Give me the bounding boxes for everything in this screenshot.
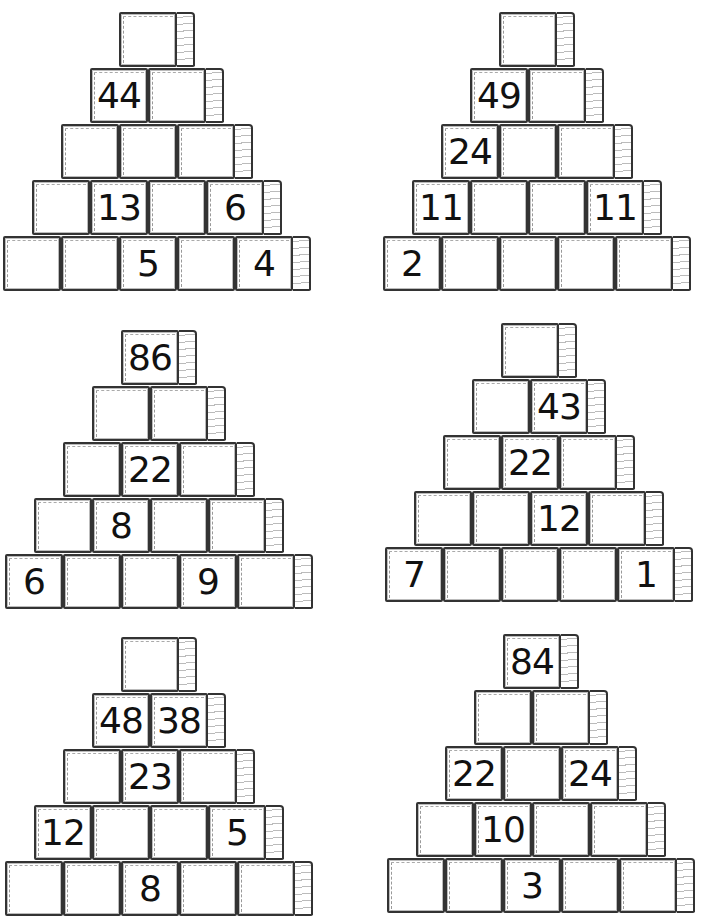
- pyramid-block-empty[interactable]: [615, 236, 673, 291]
- block-side-shading: [208, 386, 226, 441]
- pyramid-block-empty[interactable]: [63, 442, 121, 497]
- pyramid-block-empty[interactable]: [148, 68, 206, 123]
- pyramid-block-given: 6: [206, 180, 264, 235]
- pyramid-block-given: 5: [119, 236, 177, 291]
- pyramid-block-empty[interactable]: [416, 802, 474, 857]
- pyramid-block-given: 24: [561, 746, 619, 801]
- pyramid-block-empty[interactable]: [148, 180, 206, 235]
- pyramid-block-empty[interactable]: [61, 236, 119, 291]
- pyramid-block-given: 86: [121, 330, 179, 385]
- block-side-shading: [646, 491, 664, 546]
- pyramid-block-empty[interactable]: [532, 802, 590, 857]
- block-side-shading: [586, 68, 604, 123]
- pyramid-block-given: 12: [530, 491, 588, 546]
- pyramid-block-given: 24: [441, 124, 499, 179]
- block-side-shading: [295, 554, 313, 609]
- pyramid-block-empty[interactable]: [177, 124, 235, 179]
- pyramid-block-empty[interactable]: [63, 749, 121, 804]
- block-side-shading: [237, 442, 255, 497]
- pyramid-block-empty[interactable]: [5, 861, 63, 916]
- pyramid-block-empty[interactable]: [3, 236, 61, 291]
- pyramid-block-empty[interactable]: [528, 68, 586, 123]
- pyramid-block-empty[interactable]: [561, 858, 619, 913]
- pyramid-block-given: 23: [121, 749, 179, 804]
- block-side-shading: [619, 746, 637, 801]
- pyramid-block-empty[interactable]: [119, 12, 177, 67]
- pyramid-block-empty[interactable]: [557, 236, 615, 291]
- block-side-shading: [235, 124, 253, 179]
- pyramid-block-empty[interactable]: [590, 802, 648, 857]
- pyramid-block-empty[interactable]: [559, 547, 617, 602]
- pyramid-block-given: 6: [5, 554, 63, 609]
- pyramid-6: 842224103: [387, 634, 703, 919]
- pyramid-block-empty[interactable]: [237, 861, 295, 916]
- block-side-shading: [264, 180, 282, 235]
- pyramid-block-empty[interactable]: [150, 386, 208, 441]
- pyramid-block-empty[interactable]: [532, 690, 590, 745]
- pyramid-block-empty[interactable]: [472, 491, 530, 546]
- pyramid-block-empty[interactable]: [501, 547, 559, 602]
- pyramid-5: 4838231258: [5, 637, 325, 919]
- pyramid-block-empty[interactable]: [237, 554, 295, 609]
- pyramid-block-empty[interactable]: [208, 498, 266, 553]
- pyramid-block-empty[interactable]: [441, 236, 499, 291]
- pyramid-block-empty[interactable]: [559, 435, 617, 490]
- pyramid-block-empty[interactable]: [445, 858, 503, 913]
- pyramid-block-empty[interactable]: [150, 805, 208, 860]
- pyramid-block-empty[interactable]: [474, 690, 532, 745]
- pyramid-2: 492411112: [383, 12, 703, 312]
- pyramid-block-empty[interactable]: [499, 236, 557, 291]
- pyramid-block-empty[interactable]: [63, 861, 121, 916]
- block-side-shading: [557, 12, 575, 67]
- pyramid-block-empty[interactable]: [557, 124, 615, 179]
- pyramid-block-empty[interactable]: [32, 180, 90, 235]
- pyramid-block-empty[interactable]: [179, 749, 237, 804]
- pyramid-block-given: 8: [121, 861, 179, 916]
- block-side-shading: [208, 693, 226, 748]
- pyramid-block-empty[interactable]: [443, 435, 501, 490]
- pyramid-block-given: 10: [474, 802, 532, 857]
- pyramid-block-empty[interactable]: [503, 746, 561, 801]
- pyramid-block-empty[interactable]: [34, 498, 92, 553]
- pyramid-block-empty[interactable]: [61, 124, 119, 179]
- pyramid-block-given: 8: [92, 498, 150, 553]
- pyramid-block-given: 49: [470, 68, 528, 123]
- block-side-shading: [561, 634, 579, 689]
- pyramid-block-empty[interactable]: [501, 323, 559, 378]
- pyramid-block-empty[interactable]: [387, 858, 445, 913]
- pyramid-block-empty[interactable]: [414, 491, 472, 546]
- pyramid-block-empty[interactable]: [121, 554, 179, 609]
- pyramid-block-given: 22: [445, 746, 503, 801]
- block-side-shading: [675, 547, 693, 602]
- pyramid-block-empty[interactable]: [121, 637, 179, 692]
- block-side-shading: [266, 805, 284, 860]
- pyramid-block-empty[interactable]: [179, 861, 237, 916]
- pyramid-block-empty[interactable]: [92, 805, 150, 860]
- pyramid-block-empty[interactable]: [588, 491, 646, 546]
- pyramid-block-empty[interactable]: [619, 858, 677, 913]
- pyramid-block-empty[interactable]: [179, 442, 237, 497]
- pyramid-block-empty[interactable]: [470, 180, 528, 235]
- pyramid-block-empty[interactable]: [499, 12, 557, 67]
- pyramid-block-given: 1: [617, 547, 675, 602]
- pyramid-block-empty[interactable]: [177, 236, 235, 291]
- pyramid-block-given: 22: [501, 435, 559, 490]
- pyramid-block-given: 48: [92, 693, 150, 748]
- pyramid-block-empty[interactable]: [150, 498, 208, 553]
- pyramid-block-given: 9: [179, 554, 237, 609]
- pyramid-block-empty[interactable]: [92, 386, 150, 441]
- pyramid-block-empty[interactable]: [443, 547, 501, 602]
- block-side-shading: [179, 637, 197, 692]
- pyramid-block-empty[interactable]: [63, 554, 121, 609]
- block-side-shading: [559, 323, 577, 378]
- block-side-shading: [644, 180, 662, 235]
- block-side-shading: [617, 435, 635, 490]
- pyramid-block-given: 38: [150, 693, 208, 748]
- pyramid-block-given: 2: [383, 236, 441, 291]
- block-side-shading: [293, 236, 311, 291]
- pyramid-block-empty[interactable]: [528, 180, 586, 235]
- pyramid-block-empty[interactable]: [499, 124, 557, 179]
- pyramid-3: 8622869: [5, 330, 325, 630]
- pyramid-block-empty[interactable]: [472, 379, 530, 434]
- pyramid-block-empty[interactable]: [119, 124, 177, 179]
